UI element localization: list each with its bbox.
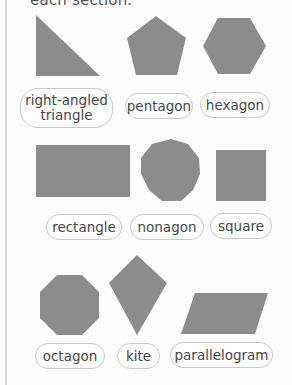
parallelogram-shape bbox=[181, 293, 268, 334]
shapes-canvas bbox=[0, 0, 292, 385]
square-shape bbox=[216, 150, 266, 201]
label-nonagon: nonagon bbox=[130, 214, 204, 240]
pentagon-shape bbox=[127, 16, 186, 75]
label-square: square bbox=[210, 213, 272, 239]
label-octagon: octagon bbox=[35, 343, 105, 369]
label-right-angled-triangle: right-angled triangle bbox=[20, 88, 113, 128]
nonagon-shape bbox=[141, 139, 200, 201]
label-kite: kite bbox=[117, 343, 160, 369]
label-text: square bbox=[218, 219, 264, 234]
rectangle-shape bbox=[36, 145, 130, 197]
kite-shape bbox=[109, 255, 167, 335]
label-text: right-angled triangle bbox=[21, 93, 112, 123]
label-rectangle: rectangle bbox=[46, 214, 122, 240]
right-angled-triangle-shape bbox=[36, 15, 100, 76]
label-text: parallelogram bbox=[174, 348, 268, 363]
octagon-shape bbox=[40, 275, 99, 335]
label-parallelogram: parallelogram bbox=[170, 342, 273, 368]
label-hexagon: hexagon bbox=[200, 92, 270, 118]
label-text: rectangle bbox=[52, 220, 116, 235]
label-text: hexagon bbox=[206, 98, 264, 113]
label-text: kite bbox=[126, 349, 151, 364]
label-text: nonagon bbox=[137, 220, 196, 235]
label-text: octagon bbox=[43, 349, 98, 364]
label-text: pentagon bbox=[127, 99, 191, 114]
label-pentagon: pentagon bbox=[125, 93, 193, 119]
hexagon-shape bbox=[203, 18, 266, 74]
